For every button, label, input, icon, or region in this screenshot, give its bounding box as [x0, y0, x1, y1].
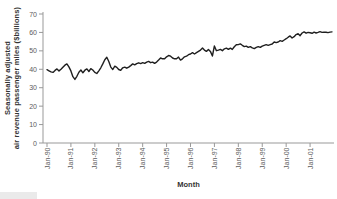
- y-tick-label: 30: [29, 84, 37, 91]
- x-tick-label: Jan-98: [235, 147, 242, 169]
- y-tick-label: 40: [29, 66, 37, 73]
- y-tick-label: 70: [29, 11, 37, 18]
- x-tick-label: Jan-97: [211, 147, 218, 169]
- x-tick-label: Jan-01: [307, 147, 314, 169]
- line-chart: 010203040506070Jan-90Jan-91Jan-92Jan-93J…: [0, 0, 337, 199]
- x-tick-label: Jan-99: [259, 147, 266, 169]
- y-axis-title: Seasonally adjusted air revenue passenge…: [3, 3, 21, 153]
- x-tick-label: Jan-91: [67, 147, 74, 169]
- x-tick-label: Jan-93: [115, 147, 122, 169]
- x-tick-label: Jan-00: [283, 147, 290, 169]
- chart-figure: 010203040506070Jan-90Jan-91Jan-92Jan-93J…: [0, 0, 337, 199]
- x-tick-label: Jan-95: [163, 147, 170, 169]
- x-tick-label: Jan-96: [187, 147, 194, 169]
- y-tick-label: 0: [33, 140, 37, 147]
- x-tick-label: Jan-94: [139, 147, 146, 169]
- x-tick-label: Jan-92: [91, 147, 98, 169]
- y-axis-title-line2: air revenue passenger miles ($billions): [12, 3, 21, 153]
- y-tick-label: 60: [29, 29, 37, 36]
- data-series-line: [47, 32, 332, 80]
- y-tick-label: 50: [29, 47, 37, 54]
- y-axis-title-line1: Seasonally adjusted: [3, 3, 12, 153]
- x-tick-label: Jan-90: [44, 147, 51, 169]
- y-tick-label: 20: [29, 103, 37, 110]
- y-tick-label: 10: [29, 121, 37, 128]
- screen-edge-artifact: [0, 192, 37, 199]
- x-axis-title: Month: [43, 180, 334, 189]
